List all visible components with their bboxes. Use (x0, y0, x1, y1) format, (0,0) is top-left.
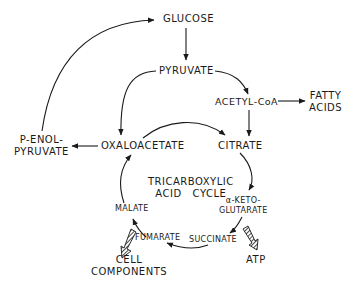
p-enol-line1: P-ENOL- (14, 134, 69, 146)
cell-components-line1: CELL (91, 254, 167, 266)
arrow-malate-to-oxaloacetate (121, 155, 131, 203)
p-enol-line2: PYRUVATE (14, 146, 69, 158)
arrow-akg-to-succinate (230, 217, 242, 233)
cell-components-line2: COMPONENTS (91, 266, 167, 278)
fatty-acids-line2: ACIDS (309, 102, 342, 114)
node-fatty-acids: FATTY ACIDS (309, 90, 342, 114)
arrow-oxaloacetate-to-citrate (143, 123, 225, 138)
arrow-citrate-to-akg (240, 153, 252, 190)
node-citrate: CITRATE (218, 140, 263, 152)
node-pyruvate: PYRUVATE (159, 65, 214, 77)
alpha-keto-line1: α-KETO- (219, 196, 268, 206)
fatty-acids-line1: FATTY (309, 90, 342, 102)
node-oxaloacetate: OXALOACETATE (101, 140, 185, 152)
node-glucose: GLUCOSE (163, 13, 214, 25)
node-atp: ATP (246, 254, 266, 266)
node-fumarate: FUMARATE (135, 233, 180, 243)
node-succinate: SUCCINATE (189, 235, 237, 245)
arrow-pyruvate-to-oxaloacetate (121, 71, 156, 135)
node-malate: MALATE (115, 204, 149, 214)
arrow-pyruvate-to-acetyl (215, 71, 248, 94)
hatched-arrow-atp (243, 226, 258, 250)
node-acetyl-coa: ACETYL-CoA (215, 96, 278, 108)
node-alpha-ketoglutarate: α-KETO- GLUTARATE (219, 196, 268, 216)
cycle-label-line1: TRICARBOXYLIC (148, 176, 234, 188)
node-cell-components: CELL COMPONENTS (91, 254, 167, 278)
node-p-enol-pyruvate: P-ENOL- PYRUVATE (14, 134, 69, 158)
arrow-pep-to-glucose (42, 20, 154, 131)
alpha-keto-line2: GLUTARATE (219, 206, 268, 216)
